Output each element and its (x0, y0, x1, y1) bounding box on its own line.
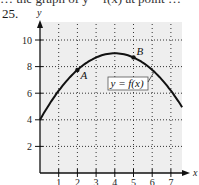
y-axis-label: y (36, 7, 42, 18)
y-tick-label: 8 (27, 61, 32, 72)
x-axis-label: x (192, 167, 198, 178)
x-tick-label: 7 (168, 177, 173, 185)
x-tick-label: 2 (75, 177, 80, 185)
x-tick-label: 1 (56, 177, 61, 185)
point-label-b: B (137, 45, 144, 57)
point-label-a: A (79, 69, 87, 81)
plot-area (40, 22, 182, 173)
y-tick-label: 2 (27, 141, 32, 152)
y-tick-label: 10 (22, 35, 32, 46)
y-tick-label: 6 (27, 88, 32, 99)
x-tick-label: 3 (94, 177, 99, 185)
x-tick-label: 5 (131, 177, 136, 185)
function-graph: xy1234567246810ABy = f(x) (0, 0, 199, 185)
x-axis-arrow-icon (182, 170, 190, 176)
function-label: y = f(x) (110, 77, 144, 90)
point-a (75, 68, 79, 72)
point-b (131, 55, 135, 59)
y-tick-label: 4 (27, 114, 32, 125)
x-tick-label: 4 (112, 177, 117, 185)
x-tick-label: 6 (150, 177, 155, 185)
